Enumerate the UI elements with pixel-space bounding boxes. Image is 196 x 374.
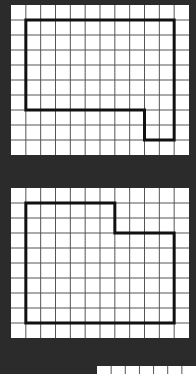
grid-panel-2	[11, 188, 189, 338]
grid-panel-partial	[97, 366, 196, 374]
grid-svg	[11, 188, 189, 338]
grid-svg	[11, 5, 189, 155]
grid-panel-1	[11, 5, 189, 155]
grid-svg	[97, 366, 196, 374]
